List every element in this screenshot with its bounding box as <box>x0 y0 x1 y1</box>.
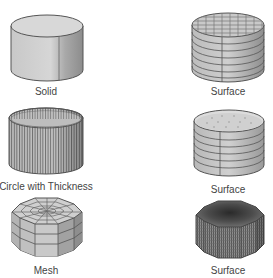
surface-grid-cylinder-figure <box>189 8 267 84</box>
surface-grid-label: Surface <box>211 86 245 97</box>
surface-dense-octagon-figure <box>193 198 267 266</box>
mesh-label: Mesh <box>34 265 58 276</box>
circle-with-thickness-figure <box>6 104 86 179</box>
surface-open-label: Surface <box>211 184 245 195</box>
mesh-octagon-figure <box>8 194 86 264</box>
surface-open-cylinder-figure <box>192 105 266 179</box>
solid-cylinder-figure <box>8 8 86 84</box>
circle-with-thickness-label: Circle with Thickness <box>0 181 93 192</box>
surface-dense-label: Surface <box>211 265 245 276</box>
solid-label: Solid <box>35 86 57 97</box>
